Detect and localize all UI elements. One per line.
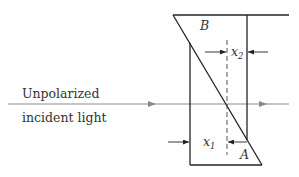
incident-label-line2: incident light [22,110,107,125]
label-x2: x2 [231,44,243,61]
prism-diagram: B A x2 x1 Unpolarized incident light [0,0,299,177]
prism-interface [173,15,262,165]
label-x1: x1 [203,134,215,151]
label-a: A [239,147,249,162]
incident-label-line1: Unpolarized [22,86,100,101]
label-b: B [199,18,209,33]
